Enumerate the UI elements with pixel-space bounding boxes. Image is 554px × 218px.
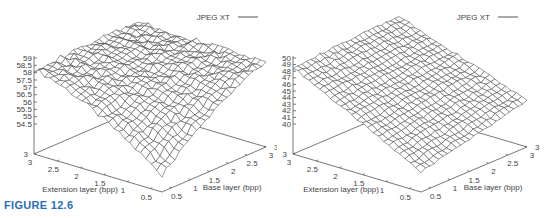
y-tick-label: 2.5 [507,159,519,168]
surface-mesh [293,17,527,173]
legend: JPEG XT [457,13,518,22]
legend: JPEG XT [197,13,258,22]
x-tick-label: 0.5 [141,193,153,200]
x-tick-label: 3 [24,150,29,159]
x-tick-label: 1 [121,186,126,195]
y-tick-label: 1 [453,184,458,193]
y-tick-label: 3 [530,151,535,160]
x-tick-label: 1 [380,186,385,195]
figure-caption: FIGURE 12.6 [4,199,73,211]
z-tick-label: 50 [282,54,291,63]
chart-right: 40414243444546474849500.511.522.530.511.… [277,0,554,200]
x-tick-label: 0.5 [400,193,412,200]
y-tick-label: 3 [269,151,274,160]
x-tick-label: 2 [74,172,79,181]
surface-mesh [34,22,266,177]
surface-plot-left: 54.55555.55656.55757.55858.5590.511.522.… [0,0,277,200]
x-axis-label: Extension layer (bpp) [303,185,379,194]
x-tick-label: 3 [287,158,292,167]
y-tick-label: 2 [491,167,496,176]
chart-left: 54.55555.55656.55757.55858.5590.511.522.… [0,0,277,200]
z-tick-label: 59 [23,54,32,63]
y-tick-label: 3 [535,143,540,152]
legend-label: JPEG XT [457,13,490,22]
legend-label: JPEG XT [197,13,230,22]
y-tick-label: 0.5 [430,192,442,200]
x-axis-label: Extension layer (bpp) [42,185,118,194]
y-tick-label: 0.5 [171,192,183,200]
y-tick-label: 1 [193,184,198,193]
x-tick-label: 2.5 [307,165,319,174]
y-tick-label: 2.5 [247,159,259,168]
y-axis-label: Base layer (bpp) [203,183,262,192]
y-tick-label: 2 [231,167,236,176]
x-tick-label: 3 [283,150,288,159]
x-tick-label: 3 [28,158,33,167]
x-tick-label: 2.5 [48,165,60,174]
x-tick-label: 2 [333,172,338,181]
y-axis-label: Base layer (bpp) [464,183,523,192]
surface-plot-right: 40414243444546474849500.511.522.530.511.… [277,0,554,200]
